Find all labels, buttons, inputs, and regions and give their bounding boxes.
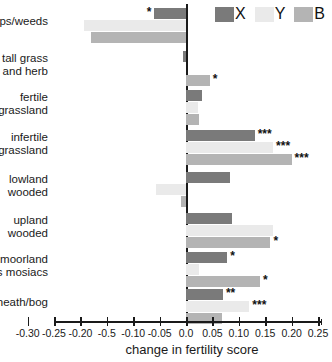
bar-group: *uplandwooded xyxy=(54,213,330,249)
significance-marker: *** xyxy=(252,299,266,311)
x-axis-title: change in fertility score xyxy=(54,342,330,358)
bar-b xyxy=(186,154,292,165)
bar-x xyxy=(154,8,186,19)
x-axis-tick-label: 0.0 xyxy=(179,327,194,339)
bar-y xyxy=(186,102,198,113)
x-axis-tick xyxy=(292,317,294,326)
significance-marker: * xyxy=(230,250,235,262)
bar-group: lowlandwooded xyxy=(54,172,330,208)
category-label-line: lowland xyxy=(0,173,48,186)
bar-x xyxy=(186,130,255,141)
category-label-line: heath/bog xyxy=(0,296,48,309)
bar-y xyxy=(186,301,249,312)
category-label-line: grassland xyxy=(0,144,48,157)
category-label-line: upland xyxy=(0,214,48,227)
bar-row xyxy=(54,90,330,101)
category-label-line: moorland xyxy=(0,253,48,266)
x-axis-tick-label: -0.10 xyxy=(121,327,145,339)
bar-row xyxy=(54,213,330,224)
significance-marker: *** xyxy=(295,152,309,164)
bar-x xyxy=(186,90,202,101)
category-label: crops/weeds xyxy=(0,15,48,28)
bar-row xyxy=(54,51,330,62)
x-axis-tick-label: 0.15 xyxy=(255,327,275,339)
bar-row xyxy=(54,20,330,31)
bar-row: *** xyxy=(54,301,330,312)
bar-x xyxy=(186,213,232,224)
significance-marker: *** xyxy=(276,140,290,152)
bar-b xyxy=(91,32,186,43)
category-label-line: wooded xyxy=(0,227,48,240)
significance-marker: * xyxy=(213,73,218,85)
x-axis: change in fertility score -0.30-0.25-0.2… xyxy=(54,316,330,362)
x-axis-tick xyxy=(239,317,241,326)
category-label-line: grass mosiacs xyxy=(0,266,48,279)
bar-row xyxy=(54,63,330,74)
bar-group: fertilegrassland xyxy=(54,90,330,126)
bar-row: * xyxy=(54,8,330,19)
bar-row: *** xyxy=(54,154,330,165)
plot-area: *crops/weeds*tall grassand herbfertilegr… xyxy=(54,4,330,316)
bar-row: ** xyxy=(54,289,330,300)
bar-b xyxy=(181,196,186,207)
x-axis-tick-label: -0.20 xyxy=(68,327,92,339)
bar-row: * xyxy=(54,276,330,287)
bar-y xyxy=(156,184,186,195)
bar-group: **moorlandgrass mosiacs xyxy=(54,252,330,288)
significance-marker: *** xyxy=(258,128,272,140)
category-label: infertilegrassland xyxy=(0,131,48,157)
bar-row xyxy=(54,32,330,43)
bar-b xyxy=(186,114,199,125)
category-label: heath/bog xyxy=(0,296,48,309)
x-axis-tick xyxy=(54,317,56,326)
x-axis-tick xyxy=(160,317,162,326)
bar-y xyxy=(186,264,199,275)
bar-row: *** xyxy=(54,142,330,153)
bar-group: *crops/weeds xyxy=(54,8,330,44)
x-axis-tick xyxy=(318,317,320,326)
category-label-line: infertile xyxy=(0,131,48,144)
category-label: moorlandgrass mosiacs xyxy=(0,253,48,279)
x-axis-tick xyxy=(80,317,82,326)
significance-marker: * xyxy=(147,6,152,18)
x-axis-tick xyxy=(265,317,267,326)
category-label: lowlandwooded xyxy=(0,173,48,199)
x-axis-tick-label: -0.25 xyxy=(42,327,66,339)
bar-b xyxy=(186,75,210,86)
bar-row xyxy=(54,264,330,275)
x-axis-tick-label: 0.20 xyxy=(281,327,301,339)
category-label-line: fertile xyxy=(0,91,48,104)
fertility-score-bar-chart: X Y B *crops/weeds*tall grassand herbfer… xyxy=(0,0,332,362)
significance-marker: ** xyxy=(226,287,235,299)
category-label: uplandwooded xyxy=(0,214,48,240)
significance-marker: * xyxy=(263,274,268,286)
bar-group: *tall grassand herb xyxy=(54,51,330,87)
x-axis-tick xyxy=(107,317,109,326)
x-axis-tick-label: 0.25 xyxy=(308,327,328,339)
bar-y xyxy=(84,20,186,31)
x-axis-tick xyxy=(133,317,135,326)
bar-b xyxy=(186,237,270,248)
category-label-line: and herb xyxy=(0,65,48,78)
category-label-line: wooded xyxy=(0,186,48,199)
bar-y xyxy=(186,142,273,153)
bar-b xyxy=(186,276,260,287)
bar-row xyxy=(54,184,330,195)
x-axis-tick-label: 0.10 xyxy=(229,327,249,339)
category-label-line: tall grass xyxy=(0,52,48,65)
x-axis-line xyxy=(54,321,322,323)
x-axis-tick xyxy=(28,317,30,326)
category-label-line: grassland xyxy=(0,104,48,117)
bar-row: * xyxy=(54,237,330,248)
bar-row: * xyxy=(54,75,330,86)
bar-row xyxy=(54,225,330,236)
x-axis-tick xyxy=(186,317,188,326)
bar-group: *********infertilegrassland xyxy=(54,130,330,166)
category-label: tall grassand herb xyxy=(0,52,48,78)
x-axis-tick-label: 0.05 xyxy=(202,327,222,339)
x-axis-tick-label: -0.5 xyxy=(98,327,116,339)
significance-marker: * xyxy=(273,235,278,247)
bar-y xyxy=(186,225,273,236)
category-label: fertilegrassland xyxy=(0,91,48,117)
bar-row xyxy=(54,196,330,207)
